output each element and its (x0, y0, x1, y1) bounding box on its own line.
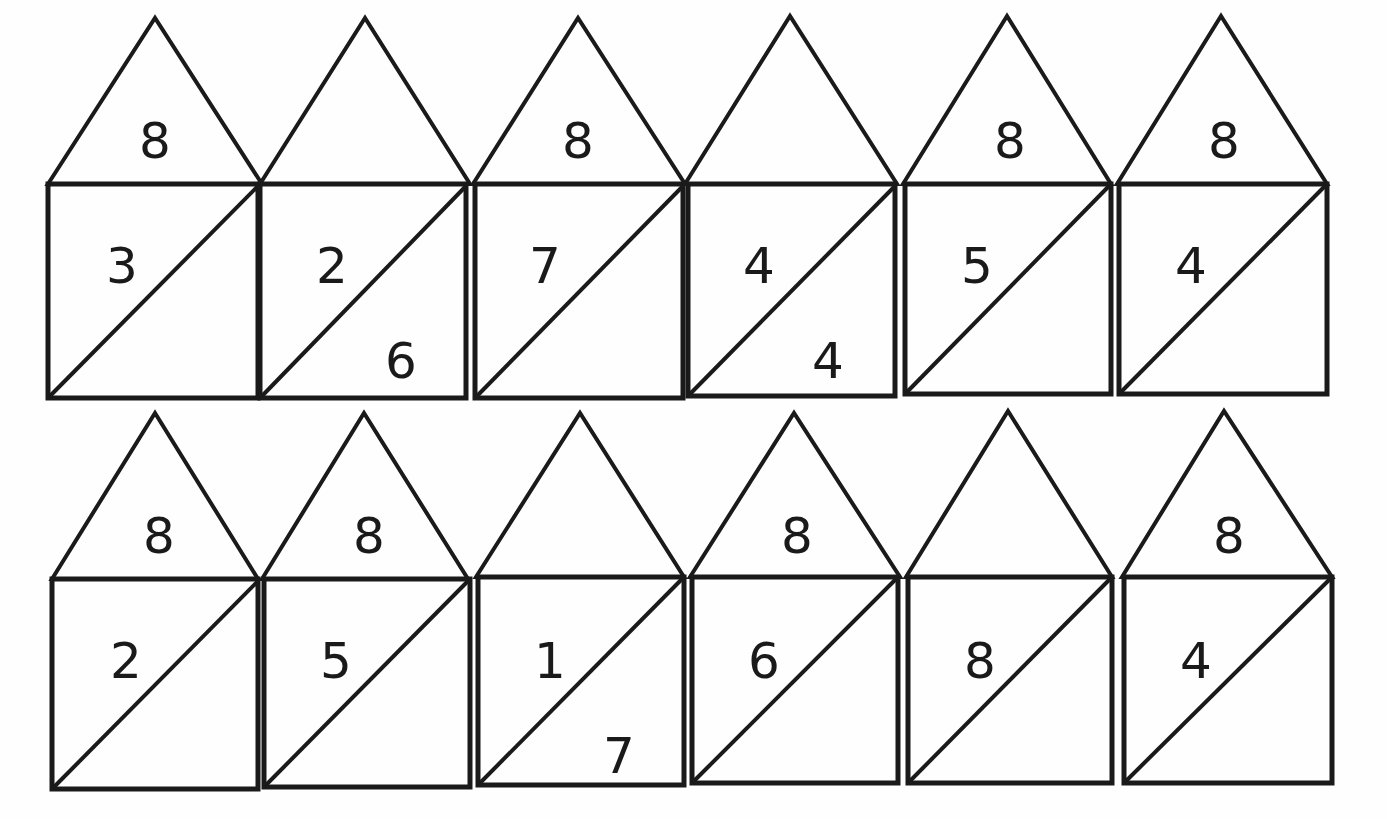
left-part-field[interactable]: 7 (515, 241, 575, 291)
left-part-field[interactable]: 1 (520, 636, 580, 686)
left-part-field[interactable]: 4 (1161, 241, 1221, 291)
number-house: 4 4 (685, 16, 899, 400)
house-outline-icon (262, 411, 476, 795)
right-part-field[interactable]: 4 (798, 336, 858, 386)
number-house: 8 5 (262, 411, 476, 795)
house-outline-icon (1122, 411, 1336, 795)
house-outline-icon (690, 411, 904, 795)
house-row-1: 8 3 2 6 8 7 (0, 16, 1387, 416)
left-part-field[interactable]: 2 (302, 241, 362, 291)
roof-total-field[interactable]: 8 (980, 116, 1040, 166)
house-outline-icon (1117, 16, 1331, 400)
roof-total-field[interactable]: 8 (125, 116, 185, 166)
left-part-field[interactable]: 8 (950, 636, 1010, 686)
house-outline-icon (476, 411, 690, 795)
house-outline-icon (685, 16, 899, 400)
roof-total-field[interactable]: 8 (767, 511, 827, 561)
house-outline-icon (48, 16, 262, 400)
number-house: 8 (906, 411, 1120, 795)
roof-total-field[interactable]: 8 (1199, 511, 1259, 561)
house-outline-icon (471, 16, 685, 400)
number-house: 8 7 (471, 16, 685, 400)
roof-total-field[interactable]: 8 (1194, 116, 1254, 166)
roof-total-field[interactable]: 8 (339, 511, 399, 561)
left-part-field[interactable]: 2 (96, 636, 156, 686)
number-house: 1 7 (476, 411, 690, 795)
number-house: 8 2 (52, 411, 266, 795)
left-part-field[interactable]: 6 (734, 636, 794, 686)
worksheet: 8 3 2 6 8 7 (0, 0, 1387, 819)
house-outline-icon (258, 16, 472, 400)
house-outline-icon (52, 411, 266, 795)
number-house: 8 6 (690, 411, 904, 795)
number-house: 8 5 (903, 16, 1117, 400)
right-part-field[interactable]: 7 (589, 731, 649, 781)
number-house: 8 4 (1117, 16, 1331, 400)
left-part-field[interactable]: 5 (306, 636, 366, 686)
left-part-field[interactable]: 3 (92, 241, 152, 291)
left-part-field[interactable]: 4 (1166, 636, 1226, 686)
house-outline-icon (906, 411, 1120, 795)
house-row-2: 8 2 8 5 1 7 (0, 411, 1387, 811)
left-part-field[interactable]: 4 (729, 241, 789, 291)
number-house: 8 4 (1122, 411, 1336, 795)
right-part-field[interactable]: 6 (371, 336, 431, 386)
number-house: 8 3 (48, 16, 262, 400)
roof-total-field[interactable]: 8 (129, 511, 189, 561)
left-part-field[interactable]: 5 (947, 241, 1007, 291)
number-house: 2 6 (258, 16, 472, 400)
house-outline-icon (903, 16, 1117, 400)
roof-total-field[interactable]: 8 (548, 116, 608, 166)
